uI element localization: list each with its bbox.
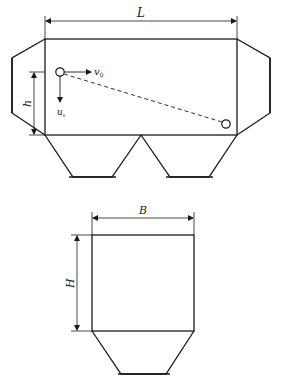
particle-end xyxy=(222,120,230,128)
settling-chamber-diagram: L h v0 us B H xyxy=(0,0,282,386)
width-label: B xyxy=(138,204,147,217)
hopper-right xyxy=(141,135,237,177)
settling-velocity-label: us xyxy=(57,107,66,118)
particle-start xyxy=(56,68,64,76)
front-view xyxy=(71,212,194,374)
side-view xyxy=(12,16,270,177)
inlet-transition xyxy=(12,39,45,135)
particle-trajectory xyxy=(64,74,222,122)
horizontal-velocity-label: v0 xyxy=(94,66,104,78)
height-label-h: h xyxy=(21,100,34,107)
outlet-transition xyxy=(237,39,270,135)
length-label: L xyxy=(136,6,145,20)
height-label-H: H xyxy=(64,278,77,289)
front-hopper xyxy=(92,331,194,374)
front-chamber-body xyxy=(92,235,194,331)
chamber-body xyxy=(45,39,237,135)
hopper-left xyxy=(45,135,141,177)
